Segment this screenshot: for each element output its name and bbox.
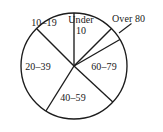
pie-label-60-79: 60–79 bbox=[84, 62, 124, 73]
pie-chart: Under 10 Over 80 10–19 20–39 40–59 60–79 bbox=[0, 0, 163, 132]
pie-label-over-80: Over 80 bbox=[112, 14, 158, 25]
over-80-leader-line bbox=[119, 24, 132, 34]
pie-label-20-39: 20–39 bbox=[17, 62, 59, 73]
pie-label-under-10-line2: 10 bbox=[76, 25, 86, 36]
pie-label-under-10: Under 10 bbox=[60, 14, 102, 36]
pie-label-40-59: 40–59 bbox=[52, 93, 94, 104]
pie-label-under-10-line1: Under bbox=[68, 14, 94, 25]
pie-label-10-19: 10–19 bbox=[24, 18, 64, 29]
